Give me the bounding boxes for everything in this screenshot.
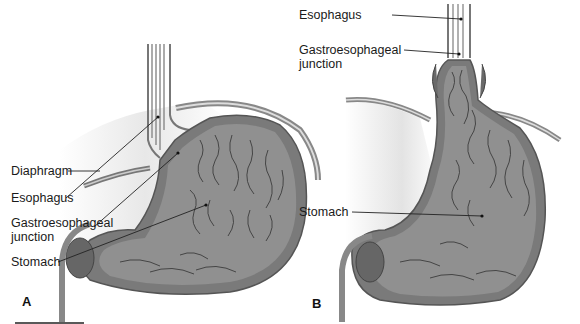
label-esophagus-b: Esophagus (299, 8, 362, 22)
stomach-anatomy-illustration (0, 0, 580, 324)
label-ge-junction-a-line1: Gastroesophageal (11, 216, 113, 230)
label-esophagus-a: Esophagus (11, 191, 74, 205)
label-stomach-b: Stomach (299, 205, 348, 219)
panel-label-b: B (312, 296, 321, 311)
label-stomach-a: Stomach (11, 255, 60, 269)
label-ge-junction-b-line1: Gastroesophageal (299, 43, 401, 57)
label-ge-junction-a-line2: junction (11, 230, 54, 244)
panel-label-a: A (22, 294, 31, 309)
label-diaphragm-a: Diaphragm (11, 164, 72, 178)
panel-a-drawing (15, 44, 318, 323)
label-ge-junction-b-line2: junction (299, 57, 342, 71)
